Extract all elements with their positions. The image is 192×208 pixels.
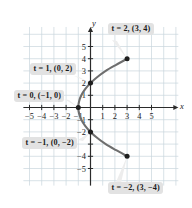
callout-t-minus1: t = −1, (0, −2) [22,137,77,149]
svg-text:2: 2 [113,112,117,121]
callout-t-2: t = 2, (3, 4) [108,23,154,35]
callout-t-0: t = 0, (−1, 0) [14,90,64,102]
svg-text:−5: −5 [25,112,34,121]
svg-text:1: 1 [101,112,105,121]
svg-text:−2: −2 [77,128,86,137]
plot-canvas: −5−4−3−2−11234554321−1−2−4−5 [0,0,192,208]
svg-text:−4: −4 [37,112,47,121]
svg-text:−3: −3 [49,112,58,121]
parametric-curve-figure: −5−4−3−2−11234554321−1−2−4−5 y x t = 2, … [0,0,192,208]
svg-text:5: 5 [82,43,86,52]
callout-t-1: t = 1, (0, 2) [30,63,76,75]
svg-text:−2: −2 [62,112,71,121]
svg-text:−5: −5 [77,165,86,174]
svg-text:−4: −4 [77,152,87,161]
callout-t-minus2: t = −2, (3, −4) [108,182,163,194]
svg-text:3: 3 [82,67,86,76]
grid-lines [23,27,178,186]
x-axis-label: x [180,101,184,111]
svg-text:3: 3 [125,112,129,121]
svg-text:5: 5 [149,112,153,121]
svg-text:4: 4 [82,55,87,64]
y-axis-label: y [92,18,96,28]
axes [23,27,178,186]
